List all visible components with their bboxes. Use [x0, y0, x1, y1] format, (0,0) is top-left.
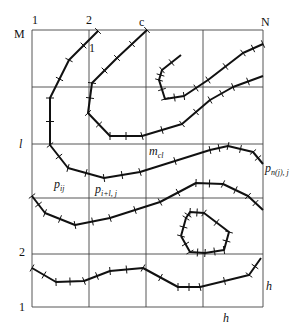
contour-tick: [183, 92, 184, 100]
contour-tick: [197, 249, 198, 257]
column-label-1: 1: [32, 13, 38, 27]
marker-label-1: 1: [89, 41, 95, 55]
contour-grid-diagram: 1 2 c N M 1 l 2 1 pij pi+l, j mcl pn(j),…: [0, 0, 307, 336]
point-label-p-i1-j: pi+l, j: [94, 182, 118, 198]
row-label-1: 1: [19, 300, 25, 314]
contour-lines: [29, 27, 265, 291]
dimension-label-h-horizontal: h: [223, 311, 229, 325]
contour-2: [88, 30, 263, 136]
contour-6: [32, 258, 261, 287]
contour-tick: [205, 249, 206, 257]
dimension-label-h-vertical: h: [266, 279, 272, 293]
point-label-p-nj: pn(j), j: [264, 161, 290, 177]
column-label-c: c: [139, 15, 144, 29]
point-label-p-ij: pij: [53, 177, 65, 193]
column-label-2: 2: [86, 13, 92, 27]
contour-tick: [103, 174, 104, 182]
contour-tick: [197, 209, 198, 217]
grid: [32, 30, 263, 307]
row-label-l: l: [19, 137, 23, 151]
contour-tick: [126, 266, 127, 274]
contour-tick: [86, 97, 94, 98]
contour-tick: [174, 94, 175, 102]
row-label-M: M: [14, 27, 25, 41]
column-label-N: N: [261, 15, 270, 29]
contour-tick: [110, 267, 111, 275]
point-label-m-cl: mcl: [149, 144, 164, 160]
contour-3: [159, 44, 263, 99]
contour-tick: [190, 208, 191, 216]
contour-tick: [121, 171, 122, 179]
contour-4: [32, 183, 263, 225]
contour-5: [181, 212, 229, 253]
row-label-2: 2: [19, 245, 25, 259]
